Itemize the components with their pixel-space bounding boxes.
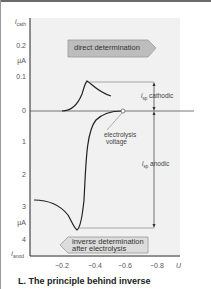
- inverse-determination-label-line2: after electrolysis: [72, 245, 126, 253]
- x-tick--0.8: −0.8: [150, 262, 164, 269]
- y-label-ianod: ianod: [2, 250, 24, 259]
- isp-cathodic-label: isp cathodic: [141, 92, 173, 102]
- y-unit-bottom: µA: [4, 219, 26, 226]
- cathodic-curve: [62, 81, 111, 111]
- direct-determination-label: direct determination: [74, 44, 140, 52]
- x-tick--0.6: −0.6: [118, 262, 132, 269]
- anodic-curve: [34, 111, 122, 230]
- x-axis-label: U: [176, 262, 181, 269]
- y-unit-top: µA: [4, 57, 26, 64]
- y-label-icath: icath: [4, 18, 26, 27]
- x-tick--0.2: −0.2: [55, 262, 69, 269]
- figure-caption: L. The principle behind inverse: [18, 276, 151, 286]
- figure: icath 0.2 µA 0.1 0 1 2 3 µA 4 ianod −0.2…: [0, 0, 211, 289]
- y-tick-0: 0: [4, 107, 26, 114]
- y-tick-1: 1: [4, 138, 26, 145]
- electrolysis-voltage-marker: [121, 109, 125, 113]
- y-tick-3: 3: [4, 203, 26, 210]
- y-tick-0.1: 0.1: [4, 73, 26, 80]
- electrolysis-leader-line: [107, 113, 122, 130]
- electrolysis-voltage-label-line2: voltage: [106, 138, 127, 145]
- electrolysis-voltage-label-line1: electrolysis: [104, 131, 136, 138]
- y-tick-4: 4: [4, 236, 26, 243]
- x-tick--0.4: −0.4: [88, 262, 102, 269]
- isp-anodic-label: isp anodic: [142, 160, 169, 170]
- y-tick-0.2: 0.2: [4, 42, 26, 49]
- y-tick-2: 2: [4, 171, 26, 178]
